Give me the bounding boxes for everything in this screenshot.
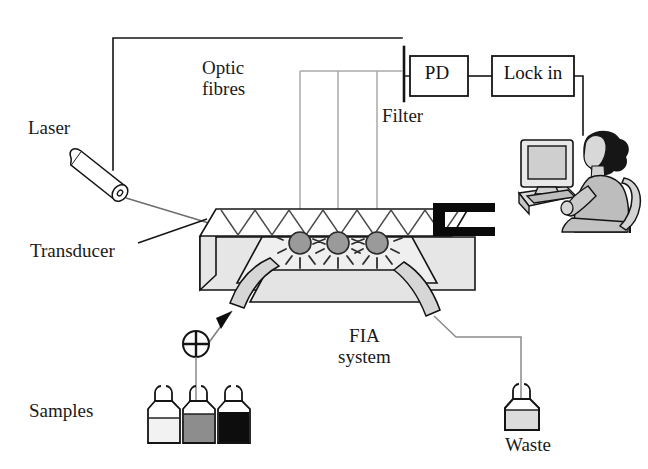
flow-chamber-fluid xyxy=(250,270,424,302)
sample-bottle-dark xyxy=(218,386,250,443)
label-waste: Waste xyxy=(505,434,551,455)
sample-bottle-light xyxy=(148,386,180,443)
label-laser: Laser xyxy=(28,117,70,138)
label-photodetector: PD xyxy=(409,62,465,84)
label-fia-system: FIA system xyxy=(338,325,391,368)
computer-operator xyxy=(519,131,640,233)
laser-source xyxy=(70,149,131,205)
transducer-leader-line xyxy=(138,219,207,243)
wire-lockin-to-computer xyxy=(574,76,583,135)
injection-valve xyxy=(183,331,209,357)
laser-beam xyxy=(126,198,212,224)
sensing-beads xyxy=(289,232,388,254)
bead-1 xyxy=(289,232,311,254)
figure-canvas: Laser Optic fibres Filter Transducer FIA… xyxy=(0,0,648,469)
wire-laser-to-filter xyxy=(113,38,402,170)
bead-2 xyxy=(327,232,349,254)
outlet-to-waste-line xyxy=(434,316,521,399)
sample-bottles xyxy=(148,386,250,443)
waste-bottle xyxy=(505,384,539,430)
sample-bottle-mid xyxy=(183,386,215,443)
bead-3 xyxy=(366,232,388,254)
monitor-screen xyxy=(528,146,566,179)
label-transducer: Transducer xyxy=(30,240,115,261)
label-filter: Filter xyxy=(382,105,423,126)
label-samples: Samples xyxy=(29,400,93,421)
inlet-arrowhead xyxy=(216,311,232,329)
electrode-contact-bracket xyxy=(433,203,495,236)
optic-fibre-bundle xyxy=(300,71,403,216)
label-lock-in: Lock in xyxy=(493,62,573,84)
operator-hand xyxy=(561,201,573,215)
label-optic-fibres: Optic fibres xyxy=(202,57,245,100)
